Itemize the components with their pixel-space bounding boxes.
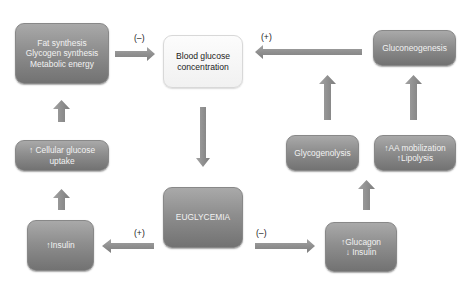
node-text: ↑Glucagon bbox=[341, 237, 381, 247]
arrow-eugly-to-glucagon bbox=[255, 239, 315, 253]
node-text: uptake bbox=[49, 156, 74, 166]
node-text: ↑Lipolysis bbox=[397, 153, 433, 163]
node-text: ↑AA mobilization bbox=[384, 143, 445, 153]
node-aa-mobilization: ↑AA mobilization ↑Lipolysis bbox=[374, 135, 456, 171]
node-text: ↑ Cellular glucose bbox=[29, 145, 95, 155]
arrow-uptake-to-fat bbox=[53, 100, 70, 122]
node-insulin-up: ↑Insulin bbox=[27, 220, 94, 271]
node-blood-glucose: Blood glucose concentration bbox=[163, 35, 243, 88]
arrow-eugly-to-insulin bbox=[102, 239, 154, 253]
node-text: Blood glucose bbox=[176, 51, 230, 61]
arrow-gluconeo-to-glucose bbox=[255, 45, 362, 59]
arrow-fat-to-glucose bbox=[115, 47, 155, 61]
node-glycogenolysis: Glycogenolysis bbox=[286, 135, 359, 171]
edge-label-gluconeo-to-glucose: (+) bbox=[261, 32, 272, 42]
node-text: Gluconeogenesis bbox=[382, 43, 447, 53]
arrow-aa-to-gluconeo bbox=[405, 75, 422, 120]
node-gluconeogenesis: Gluconeogenesis bbox=[373, 30, 456, 66]
arrow-glucagon-to-aa bbox=[358, 180, 375, 210]
edge-label-eugly-to-glucagon: (–) bbox=[256, 228, 267, 238]
node-text: ↓ Insulin bbox=[346, 247, 377, 257]
node-text: Metabolic energy bbox=[30, 59, 94, 69]
node-glucagon-insulin: ↑Glucagon ↓ Insulin bbox=[325, 222, 397, 272]
node-cellular-uptake: ↑ Cellular glucose uptake bbox=[15, 140, 109, 171]
node-text: EUGLYCEMIA bbox=[176, 212, 230, 222]
arrow-insulin-to-uptake bbox=[53, 189, 70, 210]
node-text: Glycogen synthesis bbox=[26, 48, 99, 58]
arrow-glucose-to-euglycemia bbox=[196, 107, 210, 167]
edge-label-eugly-to-insulin: (+) bbox=[134, 228, 145, 238]
node-text: concentration bbox=[177, 62, 229, 72]
node-text: Fat synthesis bbox=[37, 38, 86, 48]
node-euglycemia: EUGLYCEMIA bbox=[163, 187, 243, 248]
edge-label-fat-to-glucose: (–) bbox=[134, 33, 145, 43]
node-text: ↑Insulin bbox=[46, 240, 74, 250]
node-text: Glycogenolysis bbox=[294, 148, 350, 158]
node-fat-synthesis: Fat synthesis Glycogen synthesis Metabol… bbox=[15, 23, 109, 84]
arrow-glycogenolysis-to-gluconeo bbox=[319, 75, 336, 120]
